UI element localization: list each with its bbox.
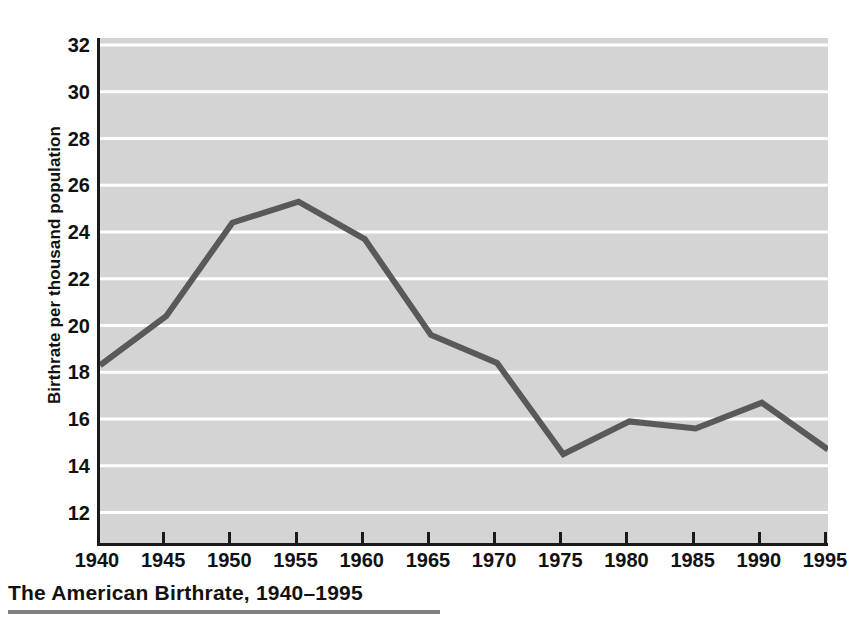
caption-underline-rule xyxy=(8,610,440,614)
x-axis-tick-mark xyxy=(625,532,628,543)
birthrate-line-series xyxy=(100,202,828,455)
chart-caption: The American Birthrate, 1940–1995 xyxy=(8,580,864,606)
gridlines xyxy=(100,45,828,513)
y-axis-tick-labels: 3230282624222018161412 xyxy=(40,38,90,543)
y-axis-tick-label: 24 xyxy=(40,221,90,244)
x-axis-tick-mark xyxy=(228,532,231,543)
x-axis-tick-mark xyxy=(162,532,165,543)
y-axis-tick-label: 22 xyxy=(40,267,90,290)
y-axis-tick-label: 32 xyxy=(40,34,90,57)
x-axis-tick-mark xyxy=(758,532,761,543)
y-axis-tick-label: 28 xyxy=(40,127,90,150)
x-axis-tick-mark xyxy=(493,532,496,543)
x-axis-tick-labels: 1940194519501955196019651970197519801985… xyxy=(97,549,825,579)
y-axis-tick-label: 12 xyxy=(40,501,90,524)
x-axis-tick-mark xyxy=(824,532,827,543)
y-axis-tick-label: 26 xyxy=(40,174,90,197)
x-axis-tick-mark xyxy=(427,532,430,543)
y-axis-tick-label: 14 xyxy=(40,454,90,477)
x-axis-tick-mark xyxy=(692,532,695,543)
y-axis-tick-label: 30 xyxy=(40,80,90,103)
caption-block: The American Birthrate, 1940–1995 xyxy=(8,580,864,614)
x-axis-tick-label: 1995 xyxy=(780,549,864,572)
x-axis-tick-mark xyxy=(295,532,298,543)
x-axis-tick-mark xyxy=(559,532,562,543)
chart-page: Birthrate per thousand population 323028… xyxy=(0,0,864,624)
plot-area xyxy=(97,38,828,546)
x-axis-tick-mark xyxy=(361,532,364,543)
chart-plot-svg xyxy=(100,38,828,543)
y-axis-tick-label: 18 xyxy=(40,361,90,384)
y-axis-tick-label: 16 xyxy=(40,408,90,431)
y-axis-tick-label: 20 xyxy=(40,314,90,337)
